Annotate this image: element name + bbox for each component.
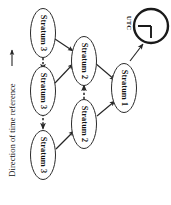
node-stratum3-c[interactable]: Stratum 3 xyxy=(31,131,56,180)
utc-label: UTC xyxy=(126,16,133,31)
time-reference-axis: Direction of time reference xyxy=(7,50,17,177)
node-label: Stratum 3 xyxy=(39,15,48,52)
node-stratum3-a[interactable]: Stratum 3 xyxy=(31,9,56,58)
utc-reference-clock[interactable]: UTC xyxy=(126,9,169,43)
node-stratum3-b[interactable]: Stratum 3 xyxy=(31,67,56,116)
node-label: Stratum 2 xyxy=(80,43,89,80)
node-label: Stratum 2 xyxy=(80,106,89,143)
edge-stratum3a-to-stratum2a xyxy=(55,39,73,51)
diagram-canvas: Stratum 3 Stratum 3 Stratum 3 Stratum 2 … xyxy=(0,0,171,205)
node-stratum1[interactable]: Stratum 1 xyxy=(112,64,137,113)
node-stratum2-a[interactable]: Stratum 2 xyxy=(72,37,97,86)
edge-stratum3b-to-stratum2a xyxy=(55,64,73,83)
edge-stratum3c-to-stratum2b xyxy=(56,131,74,149)
node-label: Stratum 1 xyxy=(120,70,129,107)
node-label: Stratum 3 xyxy=(39,73,48,110)
edge-stratum1-to-utc-clock xyxy=(130,44,143,61)
edge-stratum2a-to-stratum1 xyxy=(95,63,115,80)
node-stratum2-b[interactable]: Stratum 2 xyxy=(72,100,97,149)
edge-stratum2b-to-stratum1 xyxy=(97,101,115,116)
node-label: Stratum 3 xyxy=(39,137,48,174)
ntp-stratum-figure: Stratum 3 Stratum 3 Stratum 3 Stratum 2 … xyxy=(0,0,171,205)
axis-label: Direction of time reference xyxy=(7,83,17,176)
